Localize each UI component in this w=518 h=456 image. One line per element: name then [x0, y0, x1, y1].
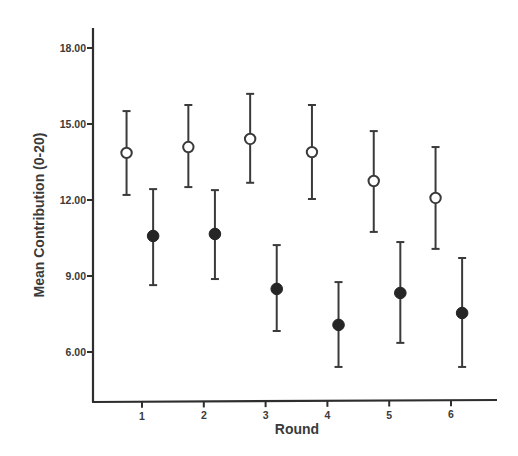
x-axis-line	[92, 400, 497, 402]
open-circle-marker	[183, 142, 193, 152]
filled-circle-marker	[333, 319, 345, 331]
error-bar-chart: 6.009.0012.0015.0018.00 123456 Round Mea…	[0, 0, 518, 456]
data-point	[369, 131, 379, 232]
data-point	[183, 105, 193, 187]
x-ticks: 123456	[139, 400, 454, 422]
series-filled-circles	[147, 189, 468, 367]
data-point	[456, 258, 468, 367]
data-point	[395, 242, 407, 343]
series-open-circles	[121, 94, 440, 249]
data-point	[245, 94, 255, 183]
data-point	[307, 105, 317, 199]
data-point	[147, 189, 159, 285]
x-axis-title: Round	[275, 421, 319, 437]
y-tick-label: 12.00	[60, 194, 86, 206]
data-point	[121, 111, 131, 195]
x-tick-label: 5	[386, 409, 392, 421]
data-series	[121, 94, 468, 367]
x-tick-label: 1	[139, 410, 145, 422]
filled-circle-marker	[147, 230, 159, 242]
open-circle-marker	[307, 147, 317, 157]
y-ticks: 6.009.0012.0015.0018.00	[60, 42, 93, 358]
filled-circle-marker	[271, 283, 283, 295]
y-tick-label: 9.00	[66, 270, 87, 282]
data-point	[271, 245, 283, 331]
open-circle-marker	[430, 193, 440, 203]
x-tick-label: 4	[324, 409, 330, 421]
x-tick-label: 6	[448, 408, 454, 420]
data-point	[333, 282, 345, 367]
filled-circle-marker	[395, 287, 407, 299]
x-tick-label: 3	[263, 409, 269, 421]
filled-circle-marker	[209, 228, 221, 240]
y-tick-label: 18.00	[60, 42, 86, 54]
y-tick-label: 15.00	[60, 118, 86, 130]
y-tick-label: 6.00	[66, 346, 87, 358]
y-axis-title: Mean Contribution (0-20)	[31, 133, 47, 298]
data-point	[430, 147, 440, 249]
open-circle-marker	[245, 134, 255, 144]
x-tick-label: 2	[201, 409, 207, 421]
data-point	[209, 190, 221, 279]
filled-circle-marker	[456, 307, 468, 319]
open-circle-marker	[369, 176, 379, 186]
open-circle-marker	[121, 148, 131, 158]
